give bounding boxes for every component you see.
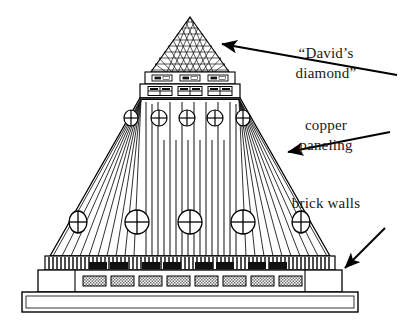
roundel	[69, 211, 87, 233]
clerestory-upper-band	[145, 72, 235, 84]
davids-diamond-label-line1: “David’s	[299, 45, 354, 61]
lower-band-windows	[148, 87, 232, 96]
brick-podium	[38, 270, 342, 292]
building-elevation-diagram: “David’s diamond” copper paneling brick …	[0, 0, 411, 324]
roundel	[236, 110, 250, 126]
roundel	[124, 110, 138, 126]
roundel	[231, 210, 255, 234]
upper-band-windows	[152, 75, 228, 81]
base-plinth	[22, 292, 358, 312]
roundel	[125, 210, 149, 234]
copper-paneling-label-line2: paneling	[299, 137, 353, 153]
brick-walls-label: brick walls	[292, 195, 360, 211]
copper-paneling-label-line1: copper	[305, 117, 347, 133]
davids-diamond-label-line2: diamond”	[296, 65, 357, 81]
stripe-band	[45, 256, 335, 270]
roundel	[207, 110, 223, 126]
roundel	[151, 110, 167, 126]
roundel	[292, 211, 310, 233]
roundel	[179, 110, 195, 126]
roundel	[178, 210, 202, 234]
clerestory-lower-band	[140, 84, 240, 98]
